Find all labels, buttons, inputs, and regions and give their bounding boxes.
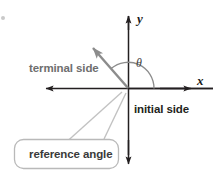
initial-side-label: initial side xyxy=(134,104,189,116)
reference-angle-label: reference angle xyxy=(29,149,113,161)
bullet-dot-icon xyxy=(1,16,5,20)
x-axis-label: x xyxy=(197,74,204,87)
callout-tail xyxy=(62,92,126,146)
y-axis-label: y xyxy=(137,12,143,25)
reference-angle-figure: y x θ terminal side initial side referen… xyxy=(0,0,219,180)
theta-label: θ xyxy=(136,57,142,69)
terminal-side-label: terminal side xyxy=(29,63,99,75)
callout-tail-line-right xyxy=(104,93,126,139)
